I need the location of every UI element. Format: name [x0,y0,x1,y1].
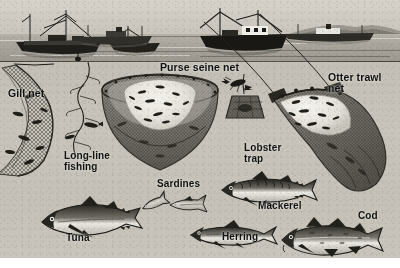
purse-seine-net-illustration [98,70,224,174]
label-tuna: Tuna [66,233,90,244]
label-sardines: Sardines [157,179,200,190]
label-otter-trawl-net: Otter trawl net [328,72,382,94]
label-lobster-trap: Lobster trap [244,143,281,164]
fish-cod [276,216,394,258]
fish-tuna [36,196,154,240]
label-mackerel: Mackerel [258,201,302,212]
label-gill-net: Gill net [8,88,44,99]
illustration-plate: Gill netPurse seine netOtter trawl netLo… [0,0,400,258]
vessel-coaster [76,22,156,48]
bottom-paper-margin [0,258,400,268]
label-purse-seine-net: Purse seine net [160,62,239,73]
label-long-line-fishing: Long-line fishing [64,151,110,172]
vessel-freighter-horizon [282,22,378,44]
fish-sardines [138,190,214,216]
label-cod: Cod [358,211,378,222]
fishing-methods-illustration: Gill netPurse seine netOtter trawl netLo… [0,0,400,268]
label-herring: Herring [222,232,258,243]
